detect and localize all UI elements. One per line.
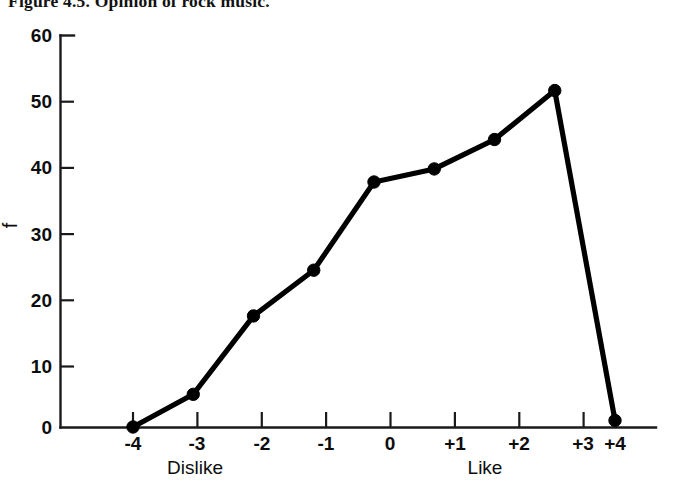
data-point-0 bbox=[368, 176, 380, 188]
y-tick-label-40: 40 bbox=[6, 158, 52, 177]
x-axis-anchor-dislike: Dislike bbox=[130, 458, 260, 477]
data-point-plus4 bbox=[609, 414, 621, 426]
data-point-plus2 bbox=[488, 133, 500, 145]
y-tick-marks bbox=[60, 102, 74, 367]
y-tick-label-20: 20 bbox=[6, 291, 52, 310]
axes-group bbox=[61, 36, 657, 428]
x-tick-label-minus2: -2 bbox=[237, 434, 287, 453]
y-tick-label-50: 50 bbox=[6, 92, 52, 111]
data-point-plus3 bbox=[549, 84, 561, 96]
x-tick-label-zero: 0 bbox=[365, 434, 415, 453]
data-point-minus2 bbox=[247, 310, 259, 322]
data-point-minus3 bbox=[187, 388, 199, 400]
data-point-minus4 bbox=[127, 421, 139, 433]
chart-canvas bbox=[0, 0, 676, 485]
x-tick-label-minus3: -3 bbox=[172, 434, 222, 453]
x-tick-label-plus2: +2 bbox=[494, 434, 544, 453]
x-axis-anchor-like: Like bbox=[420, 458, 550, 477]
data-series-frequency-polygon bbox=[127, 84, 621, 433]
x-tick-label-plus4: +4 bbox=[590, 434, 640, 453]
x-tick-label-plus1: +1 bbox=[430, 434, 480, 453]
x-tick-label-minus4: -4 bbox=[108, 434, 158, 453]
x-tick-marks bbox=[133, 412, 615, 427]
y-tick-label-0: 0 bbox=[6, 418, 52, 437]
figure-container: Figure 4.5. Opinion of rock music. bbox=[0, 0, 676, 485]
y-tick-label-10: 10 bbox=[6, 357, 52, 376]
data-point-plus1 bbox=[428, 163, 440, 175]
data-point-minus1 bbox=[308, 264, 320, 276]
frequency-polygon-line bbox=[133, 91, 615, 427]
y-tick-label-60: 60 bbox=[6, 26, 52, 45]
y-axis-label: f bbox=[0, 209, 22, 243]
x-tick-label-minus1: -1 bbox=[301, 434, 351, 453]
